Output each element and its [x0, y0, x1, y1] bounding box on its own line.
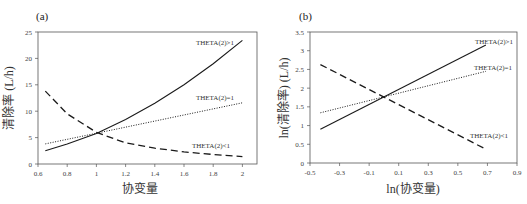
x-tick-label: 0.5 — [453, 169, 462, 177]
x-tick-label: 1.6 — [180, 170, 189, 178]
x-tick-label: 1.2 — [121, 170, 130, 178]
panel-label: (a) — [36, 10, 49, 23]
x-axis-label: ln(协变量) — [386, 181, 439, 196]
y-tick-label: 0 — [301, 160, 305, 168]
series-annotation: THETA(2)<1 — [470, 132, 508, 140]
chart-panel-a: 0.60.811.21.41.61.820510152025THETA(2)>1… — [1, 10, 257, 196]
x-tick-label: -0.3 — [334, 169, 346, 177]
y-tick-label: 25 — [25, 29, 33, 37]
x-tick-label: 1.8 — [209, 170, 218, 178]
y-tick-label: 1.5 — [295, 103, 304, 111]
series-annotation: THETA(2)<1 — [192, 142, 230, 150]
plot-frame — [310, 32, 517, 163]
y-tick-label: 0 — [29, 161, 33, 169]
y-tick-label: 2 — [301, 85, 305, 93]
y-tick-label: 3.5 — [295, 29, 304, 37]
x-tick-label: 0.1 — [394, 169, 403, 177]
y-tick-label: 5 — [29, 134, 33, 142]
x-tick-label: 0.7 — [483, 169, 492, 177]
x-axis-label: 协变量 — [122, 181, 158, 196]
y-tick-label: 2.5 — [295, 66, 304, 74]
x-tick-label: -0.5 — [304, 169, 316, 177]
x-tick-label: -0.1 — [364, 169, 376, 177]
y-axis-label: ln(清除率) (L/h) — [276, 58, 291, 139]
x-tick-label: 0.3 — [424, 169, 433, 177]
x-tick-label: 0.8 — [63, 170, 72, 178]
y-axis-label: 清除率 (L/h) — [1, 66, 16, 130]
panel-label: (b) — [299, 10, 312, 23]
series-line — [320, 45, 486, 129]
y-tick-label: 15 — [25, 81, 33, 89]
series-annotation: THETA(2)>1 — [475, 38, 513, 46]
y-tick-label: 10 — [25, 108, 33, 116]
y-tick-label: 20 — [25, 55, 33, 63]
chart-panel-b: -0.5-0.3-0.10.10.30.50.70.900.511.522.53… — [276, 10, 522, 196]
x-tick-label: 0.9 — [513, 169, 522, 177]
y-tick-label: 3 — [301, 47, 305, 55]
y-tick-label: 0.5 — [295, 141, 304, 149]
series-annotation: THETA(2)=1 — [196, 94, 234, 102]
y-tick-label: 1 — [301, 122, 305, 130]
x-tick-label: 1.4 — [150, 170, 159, 178]
chart-figure: 0.60.811.21.41.61.820510152025THETA(2)>1… — [0, 0, 527, 204]
x-tick-label: 2 — [241, 170, 245, 178]
x-tick-label: 0.6 — [34, 170, 43, 178]
series-annotation: THETA(2)>1 — [196, 39, 234, 47]
x-tick-label: 1 — [95, 170, 99, 178]
series-annotation: THETA(2)=1 — [474, 64, 512, 72]
